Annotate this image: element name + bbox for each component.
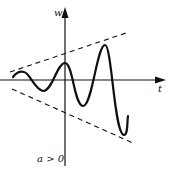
oscillation-diagram: w t a > 0	[0, 0, 173, 169]
w-axis-label: w	[54, 7, 63, 18]
oscillation-curve	[13, 45, 128, 135]
t-axis-label: t	[158, 83, 163, 94]
condition-label: a > 0	[37, 153, 65, 164]
